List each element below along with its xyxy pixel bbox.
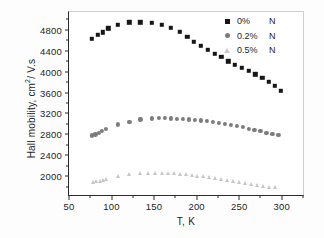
x-axis-minor-tick [132, 195, 133, 198]
legend-label-element-1: N [269, 31, 276, 41]
y-axis-minor-tick [66, 19, 69, 20]
data-point [226, 59, 230, 63]
x-axis-tick-label: 300 [273, 201, 289, 212]
data-point [213, 176, 217, 180]
data-point [178, 172, 182, 176]
data-point [157, 116, 161, 120]
data-point [185, 35, 189, 39]
x-axis-tick [196, 195, 197, 200]
y-axis-tick-label: 3600 [40, 87, 62, 98]
y-axis-tick [65, 113, 70, 114]
data-point [252, 128, 256, 132]
data-point [205, 119, 209, 123]
y-axis-title-base: Hall mobility, cm [26, 83, 37, 158]
y-axis-minor-tick [66, 61, 69, 62]
data-point [205, 47, 209, 51]
data-point [261, 184, 265, 188]
data-point [169, 116, 173, 120]
data-point [217, 121, 221, 125]
data-point [184, 172, 188, 176]
data-point [243, 181, 247, 185]
data-point [253, 72, 257, 76]
data-point [273, 185, 277, 189]
data-point [240, 65, 244, 69]
y-axis-tick [65, 155, 70, 156]
data-point [267, 185, 271, 189]
y-axis-tick-label: 3200 [40, 108, 62, 119]
x-axis-tick-label: 200 [188, 201, 204, 212]
data-point [212, 52, 216, 56]
chart-legend: 0% N 0.2% N 0.5% N [222, 16, 276, 55]
data-point [190, 173, 194, 177]
y-axis-tick [65, 29, 70, 30]
data-point [264, 130, 268, 134]
legend-item-05pct: 0.5% N [222, 45, 276, 55]
y-axis-tick [65, 50, 70, 51]
legend-triangle-marker-icon [222, 48, 232, 53]
data-point [160, 23, 164, 27]
data-point [149, 116, 153, 120]
legend-label-element-0: N [269, 16, 276, 26]
legend-item-02pct: 0.2% N [222, 31, 276, 41]
y-axis-minor-tick [66, 82, 69, 83]
data-point [207, 175, 211, 179]
x-axis-tick [69, 195, 70, 200]
data-point [225, 178, 229, 182]
y-axis-minor-tick [66, 165, 69, 166]
legend-circle-marker-icon [222, 33, 232, 38]
data-point [235, 124, 239, 128]
x-axis-minor-tick [303, 195, 304, 198]
data-point [211, 120, 215, 124]
data-point [172, 171, 176, 175]
y-axis-tick-label: 4000 [40, 66, 62, 77]
data-point [115, 122, 119, 126]
data-point [199, 44, 203, 48]
data-point [249, 182, 253, 186]
data-point [149, 21, 153, 25]
data-point [101, 30, 105, 34]
data-point [106, 26, 110, 30]
data-point [104, 177, 108, 181]
data-point [127, 119, 131, 123]
data-point [267, 79, 271, 83]
data-point [246, 69, 250, 73]
data-point [219, 55, 223, 59]
data-point [116, 174, 120, 178]
x-axis-tick-label: 250 [231, 201, 247, 212]
x-axis-minor-tick [175, 195, 176, 198]
data-point [127, 20, 131, 24]
data-point [146, 171, 150, 175]
y-axis-title: Hall mobility, cm2/ V.s [26, 34, 37, 184]
data-point [177, 30, 181, 34]
x-axis-minor-tick [217, 195, 218, 198]
data-point [276, 133, 280, 137]
legend-label-percent-0: 0% [237, 16, 264, 26]
data-point [223, 122, 227, 126]
x-axis-tick-label: 50 [64, 201, 75, 212]
data-point [240, 125, 244, 129]
data-point [138, 20, 142, 24]
data-point [103, 127, 107, 131]
x-axis-minor-tick [260, 195, 261, 198]
x-axis-tick-label: 100 [103, 201, 119, 212]
legend-label-element-2: N [269, 45, 276, 55]
y-axis-tick-label: 2800 [40, 129, 62, 140]
data-point [193, 118, 197, 122]
data-point [233, 62, 237, 66]
x-axis-tick [111, 195, 112, 200]
y-axis-tick-label: 2400 [40, 150, 62, 161]
y-axis-tick [65, 176, 70, 177]
y-axis-tick [65, 71, 70, 72]
y-axis-title-tail: / V.s [26, 59, 37, 79]
legend-item-0pct: 0% N [222, 16, 276, 26]
legend-label-percent-2: 0.5% [237, 45, 264, 55]
data-point [273, 84, 277, 88]
data-point [166, 171, 170, 175]
y-axis-tick-label: 4400 [40, 45, 62, 56]
y-axis-tick-label: 4800 [40, 24, 62, 35]
x-axis-tick [239, 195, 240, 200]
data-point [255, 183, 259, 187]
data-point [258, 129, 262, 133]
data-point [169, 25, 173, 29]
data-point [138, 171, 142, 175]
